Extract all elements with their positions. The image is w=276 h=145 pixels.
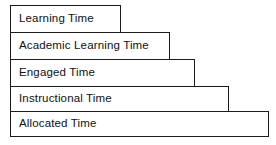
tier-label-engaged-time: Engaged Time — [11, 67, 95, 79]
tier-engaged-time: Engaged Time — [10, 59, 195, 87]
tier-learning-time: Learning Time — [10, 5, 121, 33]
tier-label-allocated-time: Allocated Time — [11, 118, 97, 130]
tier-academic-learning-time: Academic Learning Time — [10, 32, 170, 60]
tier-label-learning-time: Learning Time — [11, 13, 94, 25]
tier-allocated-time: Allocated Time — [10, 111, 269, 137]
tier-label-instructional-time: Instructional Time — [11, 93, 112, 105]
tier-instructional-time: Instructional Time — [10, 86, 229, 112]
tier-label-academic-learning-time: Academic Learning Time — [11, 40, 149, 52]
time-hierarchy-diagram: Allocated Time Instructional Time Engage… — [0, 0, 276, 145]
